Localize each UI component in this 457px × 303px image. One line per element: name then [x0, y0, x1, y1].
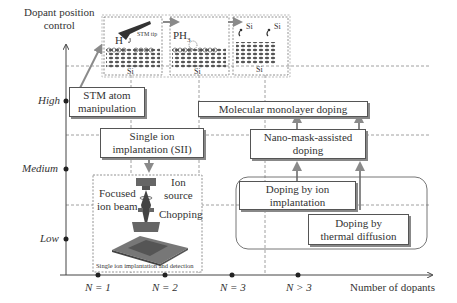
box-doping-by-thermal-diffusion: Doping by thermal diffusion: [308, 214, 409, 245]
box-single-ion-implantation: Single ion implantation (SII): [100, 128, 204, 158]
ion-source-label: Ion source: [164, 176, 193, 202]
chopper-left: [138, 208, 143, 212]
h-atom-label: H: [115, 34, 123, 46]
box-text: Single ion: [130, 130, 175, 143]
x-tick-n-gt3: [296, 273, 301, 278]
si-atom-label-2: Si: [274, 22, 281, 31]
sii-figure-caption: Single ion implantation and detection: [96, 262, 193, 269]
label-line: Ion: [164, 176, 193, 189]
box-text: Molecular monolayer doping: [219, 103, 347, 116]
box-text: manipulation: [78, 102, 136, 115]
label-line: ion beam: [97, 200, 138, 213]
chopper-right: [149, 208, 154, 212]
ion-source-icon: [136, 178, 156, 186]
x-tick-n1: [96, 273, 101, 278]
y-label-low: Low: [40, 232, 59, 244]
x-tick-n2: [163, 273, 168, 278]
box-text: Doping by: [335, 217, 382, 230]
y-axis-title-line2: control: [24, 19, 95, 32]
diagram-canvas: [0, 0, 457, 303]
box-text: Doping by ion: [266, 183, 330, 196]
box-stm-atom-manipulation: STM atom manipulation: [69, 87, 145, 117]
focused-ion-beam-label: Focused ion beam: [97, 187, 138, 213]
si-label-3: Si: [256, 65, 263, 74]
x-tick-label-n1: N = 1: [85, 281, 111, 293]
si-lattice-3: [236, 42, 276, 64]
y-label-medium: Medium: [22, 162, 58, 174]
y-label-high: High: [38, 94, 60, 106]
stm-tip-label: STM tip: [137, 31, 157, 37]
x-tick-n3: [230, 273, 235, 278]
y-axis-title-line1: Dopant position: [24, 6, 95, 19]
x-axis-title: Number of dopants: [350, 281, 435, 293]
box-text: Nano-mask-assisted: [264, 131, 353, 144]
label-line: source: [164, 189, 193, 202]
y-axis-title: Dopant position control: [24, 6, 95, 32]
y-tick-high: [64, 99, 69, 104]
x-tick-label-n2: N = 2: [152, 281, 178, 293]
si-label-1: Si: [127, 67, 134, 76]
label-line: Focused: [97, 187, 138, 200]
box-text: thermal diffusion: [321, 230, 397, 243]
si-label-2: Si: [194, 67, 201, 76]
box-text: STM atom: [83, 89, 130, 102]
box-text: doping: [293, 144, 324, 157]
box-doping-by-ion-implantation: Doping by ion implantation: [239, 181, 356, 210]
si-lattice-1: [106, 48, 160, 68]
si-atom-label-1: Si: [246, 22, 253, 31]
y-tick-low: [64, 237, 69, 242]
y-tick-medium: [64, 167, 69, 172]
si-lattice-2: [172, 48, 226, 68]
box-nano-mask-assisted-doping: Nano-mask-assisted doping: [250, 129, 366, 159]
box-molecular-monolayer-doping: Molecular monolayer doping: [198, 101, 368, 117]
chopping-label: Chopping: [159, 208, 202, 220]
box-text: implantation: [270, 196, 326, 209]
box-text: implantation (SII): [112, 143, 191, 156]
stm-to-panel-arrow: [80, 48, 100, 88]
x-tick-label-n-gt3: N > 3: [286, 281, 312, 293]
ph3-label: PH3: [173, 29, 191, 44]
x-tick-label-n3: N = 3: [220, 281, 246, 293]
